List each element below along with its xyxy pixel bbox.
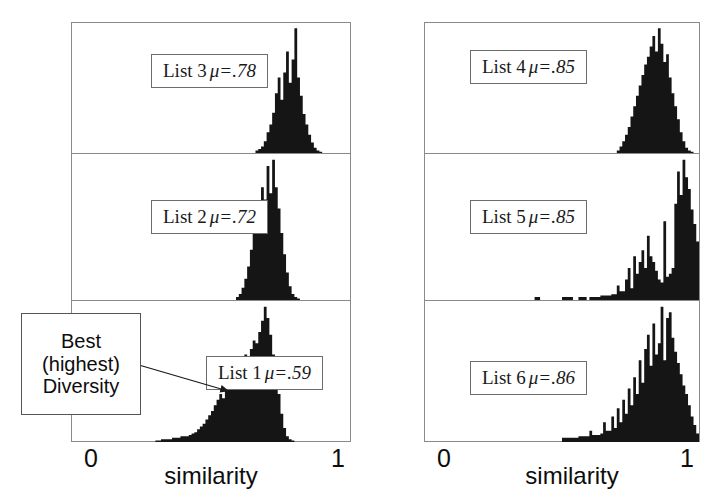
panel-label-list4: List 4μ=.85 xyxy=(470,50,587,84)
panel-label-list4-name: List 4 xyxy=(482,56,526,77)
right-panel-column: List 4μ=.85 List 5μ=.85 List 6μ=.86 xyxy=(424,22,700,442)
panel-label-list6-name: List 6 xyxy=(482,367,526,388)
callout-arrow-icon xyxy=(130,360,250,420)
x-axis-left: 0 1 similarity xyxy=(71,446,351,492)
x-axis-right: 0 1 similarity xyxy=(424,446,700,492)
panel-label-list3: List 3μ=.78 xyxy=(151,54,268,88)
panel-label-list2-mu: μ=.72 xyxy=(207,206,256,227)
x-axis-label-left: similarity xyxy=(71,464,351,488)
panel-label-list6: List 6μ=.86 xyxy=(470,361,587,395)
panel-list3: List 3μ=.78 xyxy=(72,23,350,154)
panel-label-list5-name: List 5 xyxy=(482,206,526,227)
similarity-histogram-figure: List 3μ=.78 List 2μ=.72 List 1μ=.59 xyxy=(0,0,720,501)
callout-best-diversity: Best (highest) Diversity xyxy=(21,313,141,415)
panel-label-list3-name: List 3 xyxy=(163,60,207,81)
panel-list4: List 4μ=.85 xyxy=(425,23,699,154)
panel-list5: List 5μ=.85 xyxy=(425,154,699,301)
panel-label-list4-mu: μ=.85 xyxy=(526,56,575,77)
panel-label-list2: List 2μ=.72 xyxy=(151,200,268,234)
right-panel-frame: List 4μ=.85 List 5μ=.85 List 6μ=.86 xyxy=(424,22,700,442)
panel-label-list5-mu: μ=.85 xyxy=(526,206,575,227)
callout-line-1: Best xyxy=(61,330,101,352)
panel-label-list1-mu: μ=.59 xyxy=(262,362,311,383)
panel-list2: List 2μ=.72 xyxy=(72,154,350,301)
panel-label-list2-name: List 2 xyxy=(163,206,207,227)
panel-label-list3-mu: μ=.78 xyxy=(207,60,256,81)
x-axis-label-right: similarity xyxy=(424,464,710,488)
panel-label-list6-mu: μ=.86 xyxy=(526,367,575,388)
callout-line-2: (highest) xyxy=(42,353,120,375)
callout-line-3: Diversity xyxy=(43,375,120,397)
histogram-list4 xyxy=(425,23,699,153)
panel-list6: List 6μ=.86 xyxy=(425,301,699,442)
panel-label-list5: List 5μ=.85 xyxy=(470,200,587,234)
histogram-list3 xyxy=(72,23,350,153)
